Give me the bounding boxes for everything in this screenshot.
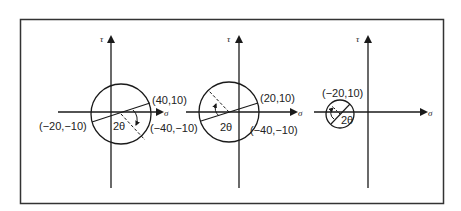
mohr-circle-diagram: τ σ (40,10) (−20,−10) (−40,−10) 2θ τ σ (… xyxy=(0,0,461,211)
tau-label: τ xyxy=(356,34,360,44)
dashed-line xyxy=(209,91,229,112)
panel-1: τ σ (40,10) (−20,−10) (−40,−10) 2θ xyxy=(39,34,198,188)
angle-arc xyxy=(331,108,334,119)
point-b-label: (−40,−10) xyxy=(250,124,298,136)
panel-3: τ σ (−20,10) (−40,−10) 2θ xyxy=(250,34,433,188)
sigma-label: σ xyxy=(298,108,303,118)
tau-label: τ xyxy=(100,34,104,44)
tau-label: τ xyxy=(227,34,231,44)
point-b-label: (−20,−10) xyxy=(39,120,87,132)
sigma-label: σ xyxy=(164,108,169,118)
angle-label: 2θ xyxy=(341,114,353,126)
angle-label: 2θ xyxy=(220,121,232,133)
angle-arc xyxy=(215,104,219,116)
point-a-label: (40,10) xyxy=(152,94,187,106)
panel-2: τ σ (20,10) (−40,−10) 2θ xyxy=(150,34,303,188)
angle-label: 2θ xyxy=(113,120,125,132)
dashed-line xyxy=(332,106,340,114)
point-a-label: (20,10) xyxy=(260,92,295,104)
point-a-label: (−20,10) xyxy=(322,87,363,99)
sigma-label: σ xyxy=(428,108,433,118)
